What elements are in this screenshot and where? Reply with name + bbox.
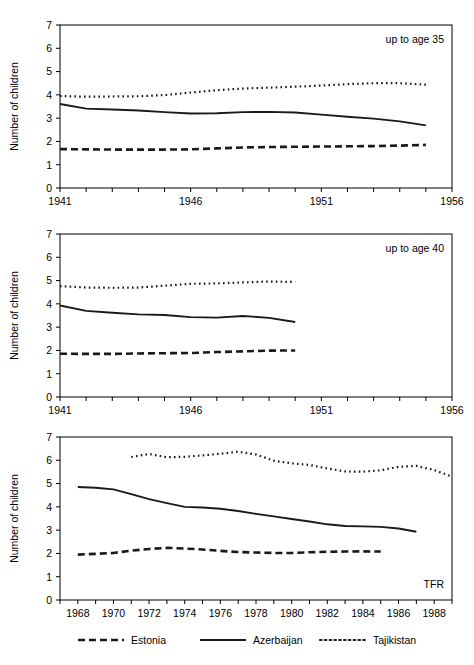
y-tick-label: 4 xyxy=(46,501,52,513)
x-tick-label: 1972 xyxy=(137,607,161,619)
series-line-azerbaijan xyxy=(78,487,417,532)
x-tick-label: 1984 xyxy=(351,607,375,619)
y-tick-label: 6 xyxy=(46,251,52,263)
chart-panel-up-to-age-40: 01234567Number of children19411946195119… xyxy=(0,210,474,425)
x-tick-label: 1986 xyxy=(387,607,411,619)
plot-frame xyxy=(60,234,452,397)
x-tick-label: 1956 xyxy=(440,195,464,207)
x-tick-label: 1956 xyxy=(440,404,464,416)
y-tick-label: 1 xyxy=(46,368,52,380)
panel-3-svg: 01234567Number of children19681970197219… xyxy=(0,420,474,625)
y-tick-label: 3 xyxy=(46,112,52,124)
panel-1-svg: 01234567Number of children19411946195119… xyxy=(0,0,474,215)
x-tick-label: 1946 xyxy=(179,195,203,207)
y-tick-label: 1 xyxy=(46,159,52,171)
plot-frame xyxy=(60,437,452,600)
y-tick-label: 7 xyxy=(46,19,52,31)
plot-frame xyxy=(60,25,452,188)
legend-label-azerbaijan: Azerbaijan xyxy=(253,634,303,646)
series-line-estonia xyxy=(60,145,426,150)
series-line-estonia xyxy=(60,350,295,353)
y-tick-label: 6 xyxy=(46,42,52,54)
series-line-tajikistan xyxy=(60,83,426,97)
legend-content: EstoniaAzerbaijanTajikistan xyxy=(78,634,416,646)
series-line-tajikistan xyxy=(60,282,295,288)
x-tick-label: 1978 xyxy=(244,607,268,619)
series-line-estonia xyxy=(78,548,381,555)
panel-annotation: up to age 40 xyxy=(386,242,445,254)
x-tick-label: 1968 xyxy=(66,607,90,619)
y-axis-title: Number of children xyxy=(8,271,20,360)
series-line-azerbaijan xyxy=(60,305,295,322)
y-tick-label: 2 xyxy=(46,344,52,356)
y-tick-label: 4 xyxy=(46,298,52,310)
x-tick-label: 1951 xyxy=(310,404,334,416)
legend-label-estonia: Estonia xyxy=(131,634,166,646)
legend-svg: EstoniaAzerbaijanTajikistan xyxy=(0,628,474,658)
x-tick-label: 1988 xyxy=(423,607,447,619)
y-tick-label: 2 xyxy=(46,547,52,559)
x-tick-label: 1974 xyxy=(173,607,197,619)
x-tick-label: 1941 xyxy=(48,195,72,207)
y-tick-label: 3 xyxy=(46,524,52,536)
panel-1-content: 01234567Number of children19411946195119… xyxy=(8,19,464,207)
y-tick-label: 5 xyxy=(46,274,52,286)
y-tick-label: 0 xyxy=(46,182,52,194)
x-tick-label: 1941 xyxy=(48,404,72,416)
x-tick-label: 1970 xyxy=(102,607,126,619)
fertility-multi-panel-figure: 01234567Number of children19411946195119… xyxy=(0,0,474,665)
y-tick-label: 2 xyxy=(46,135,52,147)
y-axis-title: Number of children xyxy=(8,62,20,151)
series-line-azerbaijan xyxy=(60,104,426,125)
y-tick-label: 0 xyxy=(46,391,52,403)
y-tick-label: 1 xyxy=(46,571,52,583)
y-tick-label: 5 xyxy=(46,477,52,489)
panel-2-content: 01234567Number of children19411946195119… xyxy=(8,228,464,416)
x-tick-label: 1946 xyxy=(179,404,203,416)
y-axis-title: Number of children xyxy=(8,474,20,563)
y-tick-label: 7 xyxy=(46,228,52,240)
panel-3-content: 01234567Number of children19681970197219… xyxy=(8,431,452,619)
y-tick-label: 3 xyxy=(46,321,52,333)
series-line-tajikistan xyxy=(131,452,452,477)
y-tick-label: 0 xyxy=(46,594,52,606)
y-tick-label: 5 xyxy=(46,65,52,77)
panel-annotation: TFR xyxy=(424,578,445,590)
chart-panel-up-to-age-35: 01234567Number of children19411946195119… xyxy=(0,0,474,215)
x-tick-label: 1982 xyxy=(316,607,340,619)
y-tick-label: 7 xyxy=(46,431,52,443)
panel-2-svg: 01234567Number of children19411946195119… xyxy=(0,210,474,425)
chart-panel-tfr: 01234567Number of children19681970197219… xyxy=(0,420,474,625)
chart-legend: EstoniaAzerbaijanTajikistan xyxy=(0,628,474,658)
x-tick-label: 1980 xyxy=(280,607,304,619)
panel-annotation: up to age 35 xyxy=(386,33,445,45)
x-tick-label: 1976 xyxy=(209,607,233,619)
y-tick-label: 6 xyxy=(46,454,52,466)
y-tick-label: 4 xyxy=(46,89,52,101)
legend-label-tajikistan: Tajikistan xyxy=(373,634,416,646)
x-tick-label: 1951 xyxy=(310,195,334,207)
